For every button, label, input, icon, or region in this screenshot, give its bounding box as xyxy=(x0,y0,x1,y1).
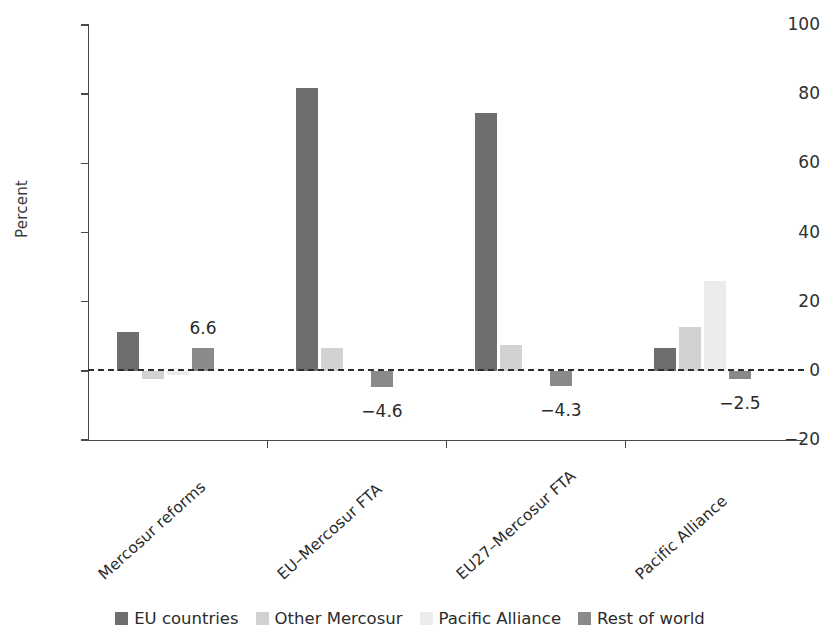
bar xyxy=(679,327,701,371)
legend-label: EU countries xyxy=(134,609,238,628)
bar xyxy=(550,371,572,386)
legend-label: Pacific Alliance xyxy=(439,609,562,628)
legend-item[interactable]: Pacific Alliance xyxy=(420,609,562,628)
zero-reference-line xyxy=(88,369,804,371)
bar xyxy=(704,281,726,371)
legend-item[interactable]: EU countries xyxy=(115,609,238,628)
bar xyxy=(117,332,139,371)
bar xyxy=(500,345,522,371)
value-label: 6.6 xyxy=(168,318,238,338)
bar xyxy=(296,88,318,371)
chart-legend: EU countriesOther MercosurPacific Allian… xyxy=(0,609,820,628)
legend-label: Other Mercosur xyxy=(275,609,403,628)
bar xyxy=(371,371,393,387)
bar xyxy=(142,371,164,380)
bar xyxy=(167,371,189,375)
legend-item[interactable]: Other Mercosur xyxy=(256,609,403,628)
bar xyxy=(192,348,214,371)
legend-swatch-icon xyxy=(578,612,591,625)
value-label: −4.6 xyxy=(347,401,417,421)
legend-swatch-icon xyxy=(115,612,128,625)
value-label: −2.5 xyxy=(705,393,775,413)
legend-label: Rest of world xyxy=(597,609,705,628)
bar-chart: Percent −20020406080100 Mercosur reforms… xyxy=(0,0,820,638)
bar xyxy=(475,113,497,371)
bar xyxy=(321,348,343,370)
plot-area xyxy=(0,0,820,638)
value-label: −4.3 xyxy=(526,400,596,420)
bar xyxy=(729,371,751,380)
legend-swatch-icon xyxy=(256,612,269,625)
bar xyxy=(654,348,676,371)
legend-item[interactable]: Rest of world xyxy=(578,609,705,628)
legend-swatch-icon xyxy=(420,612,433,625)
